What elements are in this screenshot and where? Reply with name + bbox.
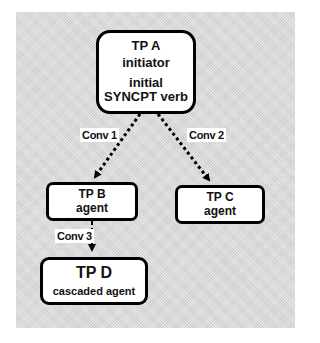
node-role: agent	[76, 202, 108, 216]
node-tp-a: TP A initiator initial SYNCPT verb	[96, 30, 196, 114]
edge-label-conv2: Conv 2	[187, 128, 226, 142]
node-role: agent	[204, 205, 236, 219]
node-title: TP B	[78, 188, 105, 202]
edge-label-conv1: Conv 1	[80, 128, 119, 142]
node-tp-b: TP B agent	[46, 182, 138, 221]
node-title: TP D	[76, 264, 112, 282]
node-role: initiator	[122, 56, 170, 71]
node-tp-d: TP D cascaded agent	[40, 257, 148, 305]
node-tp-c: TP C agent	[175, 185, 265, 224]
edge-label-conv3: Conv 3	[55, 229, 94, 243]
node-title: TP C	[206, 191, 233, 205]
node-role: cascaded agent	[53, 285, 136, 298]
node-detail: initial	[129, 76, 163, 91]
node-title: TP A	[132, 39, 161, 54]
edge-conv1-arrow	[95, 114, 140, 177]
node-detail: SYNCPT verb	[104, 90, 188, 105]
edge-conv2-arrow	[158, 114, 209, 180]
